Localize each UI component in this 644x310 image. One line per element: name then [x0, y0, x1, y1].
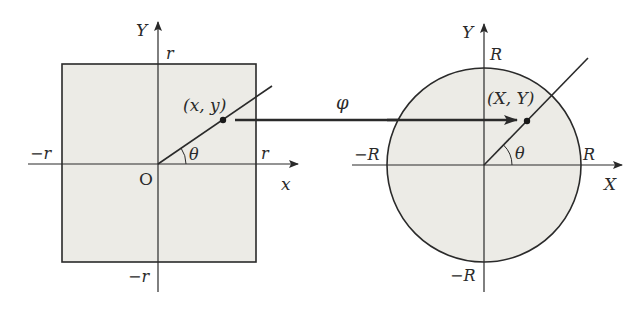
right-point-label: (X, Y): [487, 88, 534, 108]
left-y-axis-label: Y: [136, 20, 149, 40]
phi-label: φ: [336, 92, 349, 113]
right-figure: Y X R R −R −R (X, Y) θ: [352, 22, 622, 292]
square-to-disk-mapping-diagram: Y x O r r −r −r (x, y) θ φ Y X R: [0, 0, 644, 310]
right-tick-bottom: −R: [450, 266, 475, 285]
left-point: [220, 117, 226, 123]
right-angle-label: θ: [515, 144, 525, 163]
right-y-axis-label: Y: [462, 22, 475, 42]
right-tick-left: −R: [354, 145, 379, 164]
left-figure: Y x O r r −r −r (x, y) θ: [28, 20, 298, 292]
right-tick-right: R: [582, 145, 595, 164]
left-angle-label: θ: [189, 145, 199, 164]
left-tick-right: r: [261, 144, 270, 163]
left-tick-bottom: −r: [128, 267, 150, 286]
left-tick-top: r: [166, 44, 175, 63]
right-tick-top: R: [489, 45, 502, 64]
right-x-axis-label: X: [602, 174, 617, 194]
left-x-axis-label: x: [281, 174, 291, 194]
left-tick-left: −r: [30, 144, 52, 163]
left-origin-label: O: [139, 169, 153, 189]
right-point: [524, 118, 530, 124]
left-point-label: (x, y): [183, 95, 226, 115]
